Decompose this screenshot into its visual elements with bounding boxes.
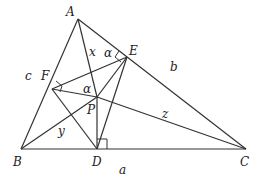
point-label-a: A — [65, 5, 75, 19]
geometry-diagram: A B C D E F P a b c x y z α α — [0, 0, 264, 184]
point-label-b: B — [12, 155, 22, 169]
segment-label-y: y — [57, 124, 65, 138]
side-label-b: b — [170, 60, 178, 74]
point-label-e: E — [128, 44, 138, 58]
segment-fd — [52, 89, 97, 149]
point-label-p: P — [86, 103, 96, 117]
point-label-f: F — [40, 69, 50, 83]
segment-label-z: z — [161, 107, 169, 121]
segment-pc — [97, 97, 246, 149]
angle-label-alpha-p: α — [83, 82, 91, 96]
point-label-c: C — [240, 155, 249, 169]
segment-ed — [97, 57, 127, 149]
side-label-c: c — [25, 69, 32, 83]
side-label-a: a — [119, 163, 126, 177]
point-label-d: D — [91, 155, 102, 169]
segment-label-x: x — [89, 45, 96, 59]
angle-label-alpha-e: α — [104, 46, 112, 60]
